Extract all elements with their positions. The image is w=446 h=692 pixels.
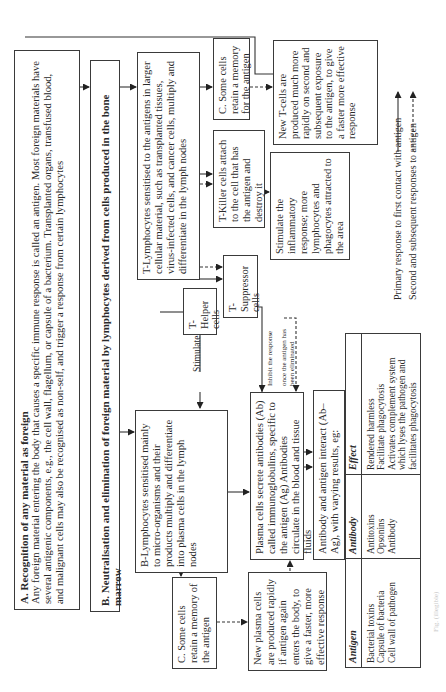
antigen-capsule: Capsule of bacteria: [376, 563, 387, 663]
b-memory-box: C. Some cells retain a memory of the ant…: [172, 577, 217, 669]
section-a-recognition: A. Recognition of any material as foreig…: [14, 50, 80, 610]
t-memory-box: C. Some cells retain a memory for the an…: [213, 38, 250, 120]
section-b-neutralisation: B. Neutralisation and elimination of for…: [90, 60, 120, 612]
t-lymphocytes-box: T-Lymphocytes sensitised to the antigens…: [137, 52, 200, 280]
inflammatory-response-box: Stimulate the inflammatory response; mor…: [270, 152, 350, 260]
antibody-antigen-interaction-box: Antibody and antigen interact (Ab–Ag), w…: [313, 390, 345, 560]
col-header-effect: Effect: [346, 334, 362, 475]
once-eliminated-label-1: once the antigen has: [280, 329, 288, 386]
antigen-cell-wall: Cell wall of pathogen: [387, 563, 398, 663]
effect-complement: Activates complement system which lyses …: [387, 338, 419, 470]
col-header-antigen: Antigen: [346, 559, 362, 668]
antibody-antitoxins: Antitoxins: [366, 479, 377, 554]
new-plasma-cells-box: New plasma cells are produced rapidly if…: [248, 572, 327, 671]
figure-caption: Fig. (illegible): [432, 592, 440, 632]
antibody-opsonins: Opsonins: [376, 479, 387, 554]
once-eliminated-label-2: been eliminated: [288, 341, 296, 386]
antibody-cell: Antitoxins Opsonins Antibody: [361, 475, 421, 559]
col-header-antibody: Antibody: [346, 475, 362, 559]
table-header-row: Antigen Antibody Effect: [346, 334, 362, 668]
section-a-title: A. Recognition of any material as foreig…: [18, 56, 30, 604]
inhibit-response-label: Inhibit the response: [266, 331, 274, 386]
new-t-cells-box: New T-cells are produced much more rapid…: [273, 40, 378, 145]
effect-harmless: Rendered harmless: [366, 338, 377, 470]
t-killer-box: T-Killer cells attach to the cell that h…: [213, 130, 265, 228]
legend-solid: Primary response to first contact with a…: [392, 118, 403, 300]
t-suppressor-box: T-Suppressor cells: [223, 255, 258, 318]
antibody-effects-table: Antigen Antibody Effect Bacterial toxins…: [345, 333, 421, 668]
table-row: Bacterial toxins Capsule of bacteria Cel…: [361, 334, 421, 668]
b-lymphocytes-box: B-Lymphocytes sensitised mainly to micro…: [135, 410, 228, 573]
effect-phagocytosis: Facilitate phagocytosis: [376, 338, 387, 470]
legend-dashed: Second and subsequent responses to antig…: [407, 123, 418, 300]
plasma-cells-box: Plasma cells secrete antibodies (Ab) cal…: [250, 392, 304, 560]
effect-cell: Rendered harmless Facilitate phagocytosi…: [361, 334, 421, 475]
antigen-bacterial-toxins: Bacterial toxins: [366, 563, 377, 663]
stimulate-label: Stimulate: [192, 336, 203, 372]
t-helper-box: T-Helper cells: [183, 288, 217, 335]
antigen-cell: Bacterial toxins Capsule of bacteria Cel…: [361, 559, 421, 668]
immune-response-diagram: A. Recognition of any material as foreig…: [0, 0, 446, 692]
section-a-body: Any foreign material entering the body t…: [30, 56, 66, 604]
antibody-antibody: Antibody: [387, 479, 398, 554]
